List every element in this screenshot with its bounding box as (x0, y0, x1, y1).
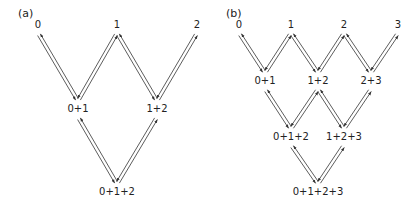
arrow-down (291, 36, 316, 73)
panel-label-a: (a) (18, 7, 33, 20)
node-2: 2 (341, 19, 347, 30)
arrow-down (371, 34, 396, 71)
arrow-down (117, 36, 155, 101)
edge-123-0123 (318, 146, 344, 183)
edge-1-12 (291, 34, 318, 72)
arrow-down (157, 34, 195, 99)
edge-12-012 (291, 90, 318, 128)
edge-2-12 (318, 34, 345, 72)
node-012: 0+1+2 (99, 186, 135, 197)
edge-0-01 (38, 34, 79, 100)
merge-diagram: (a) 0120+11+20+1+2 (b) 01230+11+22+30+1+… (0, 0, 414, 211)
arrow-down (265, 92, 289, 129)
arrow-down (78, 120, 115, 184)
arrow-up (159, 36, 197, 101)
arrow-up (40, 34, 78, 99)
node-0: 0 (236, 19, 242, 30)
edge-0-01 (239, 34, 266, 72)
arrow-up (267, 90, 291, 127)
edge-1-01 (265, 34, 292, 72)
arrow-up (293, 92, 318, 129)
arrow-up (320, 148, 344, 184)
edge-012-0123 (291, 146, 318, 184)
edge-23-123 (344, 90, 371, 128)
arrow-up (241, 34, 265, 71)
arrow-down (318, 92, 342, 129)
arrow-down (344, 36, 369, 73)
arrow-up (293, 146, 318, 182)
arrow-down (78, 34, 115, 99)
node-2: 2 (194, 19, 200, 30)
arrow-up (267, 36, 291, 73)
edges-a (38, 34, 198, 183)
edge-1-12 (117, 34, 158, 100)
node-0: 0 (35, 19, 41, 30)
edge-12-012 (117, 118, 158, 183)
panel-b: (b) 01230+11+22+30+1+21+2+30+1+2+3 (226, 7, 401, 197)
nodes-b: 01230+11+22+30+1+21+2+30+1+2+3 (236, 19, 401, 197)
panel-a: (a) 0120+11+20+1+2 (18, 7, 200, 197)
arrow-up (346, 34, 371, 71)
node-12: 1+2 (146, 103, 167, 114)
node-1: 1 (288, 19, 294, 30)
arrow-down (265, 34, 289, 71)
edge-01-012 (78, 118, 118, 183)
node-1: 1 (114, 19, 120, 30)
node-0123: 0+1+2+3 (293, 186, 344, 197)
arrow-up (119, 120, 157, 184)
arrow-up (119, 34, 157, 99)
arrow-down (318, 34, 342, 71)
arrow-up (80, 118, 117, 182)
arrow-down (38, 36, 76, 101)
edge-2-12 (157, 34, 198, 100)
edge-12-123 (318, 90, 345, 128)
arrow-up (320, 36, 344, 73)
node-3: 3 (395, 19, 401, 30)
arrow-up (80, 36, 117, 101)
arrow-down (239, 36, 263, 73)
arrow-up (293, 34, 318, 71)
node-01: 0+1 (67, 103, 88, 114)
node-012: 0+1+2 (273, 131, 309, 142)
node-23: 2+3 (360, 75, 381, 86)
arrow-down (291, 90, 316, 127)
arrow-up (373, 36, 398, 73)
arrow-up (346, 92, 371, 129)
arrow-down (291, 148, 316, 184)
node-01: 0+1 (254, 75, 275, 86)
edge-2-23 (344, 34, 371, 72)
arrow-down (117, 118, 155, 182)
node-123: 1+2+3 (326, 131, 362, 142)
arrow-down (344, 90, 369, 127)
edge-01-012 (265, 90, 292, 128)
node-12: 1+2 (307, 75, 328, 86)
edge-1-01 (78, 34, 118, 100)
arrow-down (318, 146, 342, 182)
arrow-up (320, 90, 344, 127)
edges-b (239, 34, 398, 184)
edge-3-23 (371, 34, 398, 72)
nodes-a: 0120+11+20+1+2 (35, 19, 200, 197)
